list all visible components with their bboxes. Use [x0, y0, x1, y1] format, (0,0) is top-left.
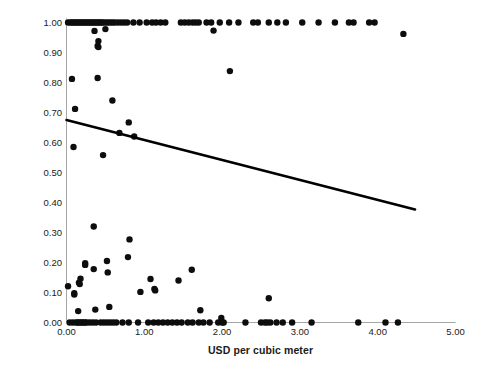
data-point: [65, 283, 71, 289]
data-point: [119, 319, 125, 325]
data-point: [315, 19, 321, 25]
data-point: [274, 19, 280, 25]
data-point: [94, 75, 100, 81]
plot-area: [0, 0, 501, 375]
data-point: [226, 19, 232, 25]
data-point: [217, 19, 223, 25]
data-point: [210, 27, 216, 33]
data-point: [69, 76, 75, 82]
data-point: [220, 319, 226, 325]
data-point: [175, 277, 181, 283]
data-point: [242, 319, 248, 325]
data-point: [283, 19, 289, 25]
scatter-chart: Risk of water shortage 0.000.100.200.300…: [0, 0, 501, 375]
data-point: [382, 319, 388, 325]
data-point: [105, 269, 111, 275]
data-point: [400, 31, 406, 37]
data-point: [109, 97, 115, 103]
data-point: [196, 19, 202, 25]
data-point: [350, 19, 356, 25]
data-point: [71, 291, 77, 297]
data-point: [137, 289, 143, 295]
data-point: [72, 106, 78, 112]
data-point: [266, 295, 272, 301]
data-point: [308, 319, 314, 325]
data-point: [145, 319, 151, 325]
data-point: [162, 19, 168, 25]
data-point: [189, 319, 195, 325]
data-point: [266, 19, 272, 25]
data-point: [70, 144, 76, 150]
data-point: [77, 281, 83, 287]
data-point: [106, 304, 112, 310]
data-point: [189, 267, 195, 273]
data-point: [152, 287, 158, 293]
data-point: [371, 19, 377, 25]
data-point: [126, 236, 132, 242]
data-point: [147, 276, 153, 282]
data-point: [227, 68, 233, 74]
data-point: [100, 152, 106, 158]
data-point: [113, 319, 119, 325]
data-point: [355, 319, 361, 325]
data-point: [136, 19, 142, 25]
data-point: [273, 319, 279, 325]
data-point: [280, 319, 286, 325]
data-point: [125, 254, 131, 260]
data-point: [197, 307, 203, 313]
data-point: [124, 19, 130, 25]
data-point: [289, 319, 295, 325]
data-point: [130, 19, 136, 25]
data-point: [135, 319, 141, 325]
data-point: [92, 306, 98, 312]
data-point: [267, 319, 273, 325]
data-point: [91, 266, 97, 272]
data-point: [95, 44, 101, 50]
data-point: [102, 26, 108, 32]
data-point: [366, 19, 372, 25]
data-point: [200, 319, 206, 325]
data-point: [91, 223, 97, 229]
data-point: [91, 28, 97, 34]
data-point: [143, 19, 149, 25]
data-point: [235, 19, 241, 25]
trendline: [67, 120, 416, 209]
data-point: [208, 19, 214, 25]
data-point: [395, 319, 401, 325]
data-point: [75, 308, 81, 314]
data-points: [65, 19, 407, 325]
data-point: [206, 319, 212, 325]
data-point: [299, 19, 305, 25]
data-point: [178, 319, 184, 325]
data-point: [255, 19, 261, 25]
data-point: [332, 19, 338, 25]
data-point: [126, 319, 132, 325]
data-point: [126, 119, 132, 125]
data-point: [104, 258, 110, 264]
data-point: [82, 262, 88, 268]
